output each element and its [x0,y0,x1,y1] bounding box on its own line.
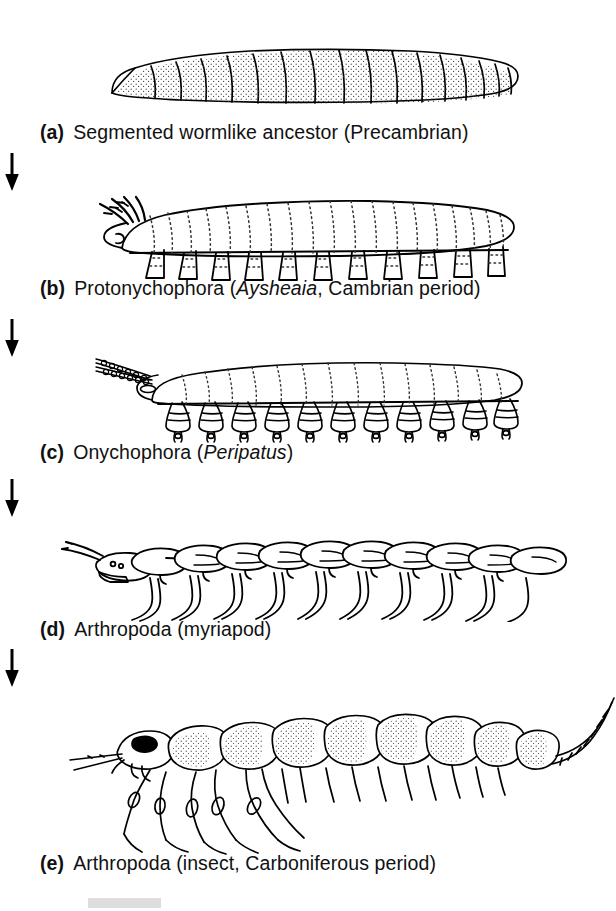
caption-b: (b)Protonychophora (Aysheaia, Cambrian p… [40,276,481,300]
panel-a: (a)Segmented wormlike ancestor (Precambr… [0,18,616,110]
caption-d-text: Arthropoda (myriapod) [74,618,271,640]
aysheaia-illustration [0,190,616,286]
panel-d: (d)Arthropoda (myriapod) [0,522,616,622]
arrow-a-to-b [0,152,616,192]
panel-label-a: (a) [40,121,64,143]
arrow-d-to-e [0,648,616,688]
caption-c-text-before: Onychophora ( [73,441,203,463]
caption-e: (e)Arthropoda (insect, Carboniferous per… [40,851,436,875]
panel-b: (b)Protonychophora (Aysheaia, Cambrian p… [0,190,616,286]
evolution-figure: (a)Segmented wormlike ancestor (Precambr… [0,0,616,911]
caption-e-text: Arthropoda (insect, Carboniferous period… [73,852,436,874]
down-arrow-icon [0,478,24,518]
panel-e: (e)Arthropoda (insect, Carboniferous per… [0,690,616,855]
peripatus-illustration [0,356,616,446]
caption-a: (a)Segmented wormlike ancestor (Precambr… [40,120,468,144]
caption-c-text-after: ) [287,441,294,463]
caption-d: (d)Arthropoda (myriapod) [40,617,271,641]
panel-label-c: (c) [40,441,64,463]
down-arrow-icon [0,648,24,688]
caption-a-text: Segmented wormlike ancestor (Precambrian… [73,121,468,143]
panel-label-b: (b) [40,277,65,299]
down-arrow-icon [0,152,24,192]
caption-b-text-after: , Cambrian period) [317,277,480,299]
bottom-watermark-bar [88,898,161,908]
arrow-b-to-c [0,318,616,358]
insect-illustration [0,690,616,855]
panel-label-e: (e) [40,852,64,874]
panel-c: (c)Onychophora (Peripatus) [0,356,616,446]
myriapod-illustration [0,522,616,622]
caption-b-scientific-name: Aysheaia [236,277,317,299]
caption-c: (c)Onychophora (Peripatus) [40,440,293,464]
segmented-worm-illustration [0,18,616,110]
panel-label-d: (d) [40,618,65,640]
caption-c-scientific-name: Peripatus [203,441,286,463]
caption-b-text-before: Protonychophora ( [74,277,236,299]
down-arrow-icon [0,318,24,358]
arrow-c-to-d [0,478,616,518]
